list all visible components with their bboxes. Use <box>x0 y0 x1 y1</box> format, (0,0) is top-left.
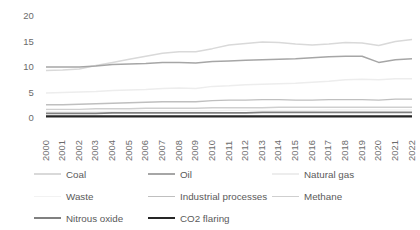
x-axis-tick-2008: 2008 <box>174 121 185 161</box>
legend-item-natural-gas[interactable]: Natural gas <box>272 163 354 185</box>
legend-label: Nitrous oxide <box>66 213 123 224</box>
x-axis-tick-2007: 2007 <box>157 121 168 161</box>
legend-swatch-line-icon <box>272 173 299 175</box>
x-axis-tick-2020: 2020 <box>373 121 384 161</box>
legend-item-industrial-processes[interactable]: Industrial processes <box>148 185 267 207</box>
legend-swatch-line-icon <box>148 196 175 197</box>
legend-label: Methane <box>304 191 342 202</box>
series-line-oil <box>46 56 412 67</box>
legend-item-methane[interactable]: Methane <box>272 185 342 207</box>
legend-item-co2-flaring[interactable]: CO2 flaring <box>148 207 230 229</box>
legend-swatch-line-icon <box>148 173 175 175</box>
legend-swatch-line-icon <box>34 217 61 219</box>
plot-area: 05101520 2000200120022003200420052006200… <box>0 0 420 165</box>
legend-item-coal[interactable]: Coal <box>34 163 86 185</box>
x-axis-tick-2011: 2011 <box>224 121 235 161</box>
x-axis-tick-2016: 2016 <box>307 121 318 161</box>
x-axis-tick-2013: 2013 <box>257 121 268 161</box>
legend-label: Industrial processes <box>180 191 267 202</box>
series-line-natural-gas <box>46 79 412 93</box>
x-axis-tick-2003: 2003 <box>90 121 101 161</box>
legend-swatch-line-icon <box>148 217 175 219</box>
x-axis-tick-2021: 2021 <box>390 121 401 161</box>
x-axis-tick-2022: 2022 <box>407 121 418 161</box>
legend-label: CO2 flaring <box>180 213 230 224</box>
x-axis-tick-2004: 2004 <box>107 121 118 161</box>
legend-row: Nitrous oxideCO2 flaring <box>0 207 420 229</box>
x-axis-tick-2010: 2010 <box>207 121 218 161</box>
x-axis-tick-2009: 2009 <box>190 121 201 161</box>
x-axis-tick-2018: 2018 <box>340 121 351 161</box>
legend-label: Oil <box>180 169 192 180</box>
x-axis-tick-2017: 2017 <box>323 121 334 161</box>
x-axis-tick-2002: 2002 <box>74 121 85 161</box>
x-axis-tick-2012: 2012 <box>240 121 251 161</box>
series-line-nitrous-oxide <box>46 112 412 113</box>
x-axis-tick-2005: 2005 <box>124 121 135 161</box>
series-line-waste <box>46 110 412 112</box>
series-line-industrial-processes <box>46 99 412 105</box>
legend-swatch-line-icon <box>34 196 61 197</box>
legend-item-oil[interactable]: Oil <box>148 163 192 185</box>
legend-item-waste[interactable]: Waste <box>34 185 93 207</box>
x-axis-tick-2015: 2015 <box>290 121 301 161</box>
x-axis-tick-2000: 2000 <box>41 121 52 161</box>
chart-legend: CoalOilNatural gasWasteIndustrial proces… <box>0 163 420 230</box>
series-line-methane <box>46 107 412 109</box>
x-axis-tick-2001: 2001 <box>57 121 68 161</box>
legend-row: WasteIndustrial processesMethane <box>0 185 420 207</box>
x-axis-tick-2019: 2019 <box>357 121 368 161</box>
legend-swatch-line-icon <box>272 196 299 197</box>
legend-label: Waste <box>66 191 93 202</box>
legend-item-nitrous-oxide[interactable]: Nitrous oxide <box>34 207 123 229</box>
legend-swatch-line-icon <box>34 173 61 175</box>
x-axis-tick-labels: 2000200120022003200420052006200720082009… <box>0 121 420 165</box>
legend-label: Natural gas <box>304 169 354 180</box>
legend-row: CoalOilNatural gas <box>0 163 420 185</box>
x-axis-tick-2006: 2006 <box>140 121 151 161</box>
line-chart: 05101520 2000200120022003200420052006200… <box>0 0 420 230</box>
legend-label: Coal <box>66 169 86 180</box>
x-axis-tick-2014: 2014 <box>273 121 284 161</box>
